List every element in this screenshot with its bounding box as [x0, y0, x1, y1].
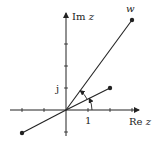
unit-real-label: 1: [85, 115, 91, 126]
imag-axis-label: Im z: [72, 11, 95, 22]
vector-w: [66, 20, 132, 110]
point-w: [130, 18, 134, 22]
angle-arc-w-z: [80, 91, 87, 99]
angle-arc-z: [89, 98, 92, 110]
point-z: [108, 86, 112, 90]
real-axis-label: Re z: [129, 116, 152, 127]
complex-plane-diagram: Im z Re z 1 j w: [0, 0, 156, 145]
point-neg-z: [20, 131, 24, 135]
point-w-label: w: [126, 3, 135, 14]
vector-neg-z: [22, 110, 66, 133]
vector-z: [66, 88, 110, 110]
unit-imag-label: j: [55, 83, 59, 94]
